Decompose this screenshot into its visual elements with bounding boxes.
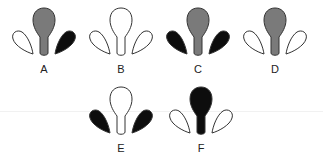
figure-label: C	[163, 63, 233, 75]
figure-label: E	[86, 142, 156, 154]
figure-label: D	[240, 63, 310, 75]
center-petal	[110, 8, 132, 55]
petal-figure-a: A	[9, 7, 79, 77]
left-petal	[90, 110, 110, 133]
center-petal	[264, 8, 286, 55]
figure-label: A	[9, 63, 79, 75]
right-petal	[286, 31, 306, 54]
petal-figure-c: C	[163, 7, 233, 77]
petal-diagram	[86, 7, 156, 59]
center-petal	[33, 8, 55, 55]
petal-diagram	[166, 86, 236, 138]
right-petal	[132, 110, 152, 133]
petal-diagram	[86, 86, 156, 138]
right-petal	[55, 31, 75, 54]
petal-diagram	[240, 7, 310, 59]
center-petal	[187, 8, 209, 55]
figure-label: B	[86, 63, 156, 75]
petal-figure-e: E	[86, 86, 156, 156]
left-petal	[13, 31, 33, 54]
petal-diagram	[163, 7, 233, 59]
center-petal	[190, 87, 212, 134]
left-petal	[167, 31, 187, 54]
petal-figure-d: D	[240, 7, 310, 77]
left-petal	[244, 31, 264, 54]
left-petal	[170, 110, 190, 133]
left-petal	[90, 31, 110, 54]
petal-figure-b: B	[86, 7, 156, 77]
right-petal	[212, 110, 232, 133]
right-petal	[132, 31, 152, 54]
background-line	[0, 111, 323, 112]
petal-figure-f: F	[166, 86, 236, 156]
figure-label: F	[166, 142, 236, 154]
petal-diagram	[9, 7, 79, 59]
right-petal	[209, 31, 229, 54]
center-petal	[110, 87, 132, 134]
